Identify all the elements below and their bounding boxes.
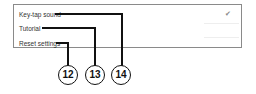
callout-12: 12 <box>58 65 78 85</box>
tutorial-option[interactable]: Tutorial <box>19 25 40 32</box>
callout-line-13 <box>94 27 96 66</box>
callout-line-14 <box>121 13 123 66</box>
callout-line-14 <box>55 13 122 15</box>
checkmark-icon[interactable]: ✔ <box>225 10 231 18</box>
callout-13: 13 <box>85 65 105 85</box>
settings-panel: Key-tap sound ✔ Tutorial Reset settings <box>13 4 242 48</box>
reset-settings-option[interactable]: Reset settings <box>19 40 60 47</box>
divider <box>204 37 239 38</box>
callout-line-12 <box>67 42 69 66</box>
callout-line-13 <box>42 27 95 29</box>
divider <box>204 23 239 24</box>
callout-14: 14 <box>111 65 131 85</box>
